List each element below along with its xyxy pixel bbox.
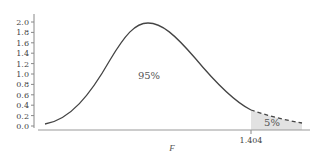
critical-value-label: 1.404 xyxy=(240,136,263,145)
svg-text:1.4: 1.4 xyxy=(16,49,29,58)
rejection-region-label: 5% xyxy=(264,117,280,128)
f-distribution-chart: 2.0 1.8 1.6 1.4 1.2 1.0 0.8 0.6 0.4 0.2 … xyxy=(0,0,322,159)
svg-text:0.0: 0.0 xyxy=(16,122,29,131)
svg-text:0.8: 0.8 xyxy=(16,80,29,89)
svg-text:0.2: 0.2 xyxy=(16,112,29,121)
svg-text:1.0: 1.0 xyxy=(16,70,29,79)
svg-text:1.2: 1.2 xyxy=(16,60,29,69)
svg-text:2.0: 2.0 xyxy=(16,18,29,27)
y-tick-labels: 2.0 1.8 1.6 1.4 1.2 1.0 0.8 0.6 0.4 0.2 … xyxy=(16,18,29,131)
svg-text:1.8: 1.8 xyxy=(16,28,29,37)
acceptance-region-label: 95% xyxy=(138,70,160,81)
svg-text:0.6: 0.6 xyxy=(16,91,29,100)
x-axis-title: F xyxy=(168,143,175,153)
svg-text:0.4: 0.4 xyxy=(16,101,29,110)
svg-text:1.6: 1.6 xyxy=(16,39,29,48)
